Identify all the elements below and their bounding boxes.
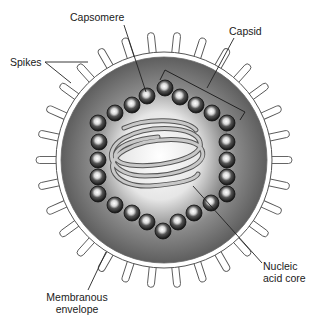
capsomere-bead <box>90 115 106 131</box>
label-spikes: Spikes <box>10 56 42 68</box>
capsomere-bead <box>157 80 173 96</box>
label-membranous-envelope: Membranous envelope <box>44 291 110 315</box>
capsomere-bead <box>186 205 202 221</box>
capsomere-bead <box>139 88 155 104</box>
label-capsid: Capsid <box>229 25 262 37</box>
capsomere-bead <box>124 205 140 221</box>
capsomere-bead <box>91 134 107 150</box>
spikes-leader-2 <box>45 62 71 83</box>
capsomere-bead <box>155 223 171 239</box>
label-capsomere: Capsomere <box>70 11 124 23</box>
capsomere-bead <box>188 97 204 113</box>
capsomere-bead <box>219 186 235 202</box>
capsomere-bead <box>124 97 140 113</box>
label-membranous-line1: Membranous <box>44 291 110 303</box>
label-nucleic-line2: acid core <box>263 272 306 284</box>
capsomere-bead <box>90 152 106 168</box>
label-nucleic-line1: Nucleic <box>263 260 306 272</box>
label-membranous-line2: envelope <box>44 303 110 315</box>
capsomere-bead <box>204 105 220 121</box>
capsomere-bead <box>219 134 235 150</box>
capsomere-bead <box>139 214 155 230</box>
label-nucleic-acid-core: Nucleic acid core <box>263 260 306 284</box>
capsomere-bead <box>107 197 123 213</box>
capsomere-bead <box>219 169 235 185</box>
capsomere-bead <box>172 89 188 105</box>
capsomere-bead <box>90 169 106 185</box>
capsomere-bead <box>170 214 186 230</box>
capsomere-bead <box>107 105 123 121</box>
capsomere-bead <box>90 186 106 202</box>
capsomere-bead <box>203 195 219 211</box>
capsomere-bead <box>219 152 235 168</box>
capsomere-bead <box>219 115 235 131</box>
